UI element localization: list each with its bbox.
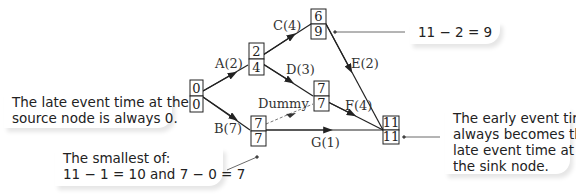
svg-text:6: 6 <box>314 9 322 24</box>
label-c: C(4) <box>273 18 301 33</box>
label-f: F(4) <box>345 98 372 113</box>
node-sink: 11 11 <box>383 115 400 144</box>
svg-text:7: 7 <box>317 81 325 96</box>
label-dummy: Dummy <box>258 96 309 111</box>
label-d: D(3) <box>286 62 315 77</box>
node-source: 0 0 <box>190 80 203 112</box>
svg-text:11: 11 <box>383 129 400 144</box>
svg-text:4: 4 <box>252 60 260 75</box>
callout-sink-note: The early event time always becomes the … <box>445 108 570 174</box>
svg-text:7: 7 <box>317 96 325 111</box>
label-e: E(2) <box>351 56 379 71</box>
callout-smallest-note: The smallest of: 11 − 1 = 10 and 7 − 0 =… <box>55 148 223 186</box>
label-g: G(1) <box>311 135 340 150</box>
node-3: 6 9 <box>311 9 326 39</box>
node-4: 7 7 <box>251 116 266 146</box>
callout-n3-note: 11 − 2 = 9 <box>410 22 500 44</box>
node-2: 2 4 <box>249 43 264 75</box>
callout-source-note: The late event time at the source node i… <box>4 92 172 128</box>
svg-text:7: 7 <box>254 131 262 146</box>
svg-text:2: 2 <box>252 44 260 59</box>
svg-text:0: 0 <box>192 81 200 96</box>
svg-text:11: 11 <box>383 115 400 130</box>
node-5: 7 7 <box>314 81 329 111</box>
svg-text:0: 0 <box>192 97 200 112</box>
label-b: B(7) <box>214 121 242 136</box>
svg-text:9: 9 <box>314 24 322 39</box>
label-a: A(2) <box>214 56 243 71</box>
svg-text:7: 7 <box>254 116 262 131</box>
